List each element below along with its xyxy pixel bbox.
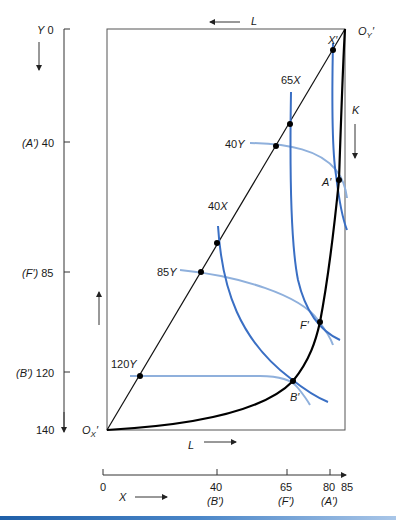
bottom-x-axis (103, 469, 346, 475)
dot-b-prime (290, 378, 296, 384)
dot-40y (273, 143, 279, 149)
x-axis-sub-b: (B′) (207, 495, 224, 507)
label-65x: 65X (281, 74, 301, 86)
label-a-prime: A′ (321, 176, 332, 188)
dot-40x (214, 240, 220, 246)
x-axis-tick-85: 85 (341, 481, 353, 493)
y-axis-label-120: (B′) 120 (16, 367, 54, 379)
tangency-points (137, 47, 342, 384)
dot-a-prime (336, 177, 342, 183)
dot-85y (198, 269, 204, 275)
label-b-prime: B′ (290, 391, 300, 403)
y-axis-label-40: (A′) 40 (22, 137, 54, 149)
top-l-label: L (251, 15, 257, 27)
label-40x: 40X (208, 200, 228, 212)
y-axis-label-0: Y 0 (37, 24, 54, 36)
label-120y: 120Y (111, 358, 137, 370)
bottom-l-label: L (188, 439, 194, 451)
x-axis-sub-a: (A′) (321, 495, 338, 507)
x-axis-tick-0: 0 (100, 481, 106, 493)
dot-120y (137, 373, 143, 379)
dot-f-prime (317, 319, 323, 325)
x-axis-title: X (118, 491, 127, 503)
diagonal-line (107, 29, 345, 430)
label-x-prime: X′ (327, 34, 338, 46)
y-axis-label-140: 140 (36, 424, 54, 436)
origin-x-label: OX′ (82, 424, 99, 439)
x-axis-tick-80: 80 (323, 481, 335, 493)
window-bottom-bar (0, 516, 396, 520)
k-label: K (352, 104, 360, 116)
label-85y: 85Y (157, 266, 177, 278)
x-axis-tick-40: 40 (210, 481, 222, 493)
edgeworth-box-diagram: Y 0 (A′) 40 (F′) 85 (B′) 120 140 L L K O… (0, 0, 396, 520)
origin-y-label: OY′ (358, 25, 375, 40)
dot-65x (287, 121, 293, 127)
isoquant-85y (180, 270, 333, 345)
label-40y: 40Y (225, 138, 245, 150)
y-axis-label-85: (F′) 85 (22, 267, 53, 279)
x-axis-sub-f: (F′) (278, 495, 294, 507)
label-f-prime: F′ (300, 319, 310, 331)
isoquant-40y (250, 143, 347, 198)
dot-x-prime (330, 47, 336, 53)
x-axis-tick-65: 65 (280, 481, 292, 493)
